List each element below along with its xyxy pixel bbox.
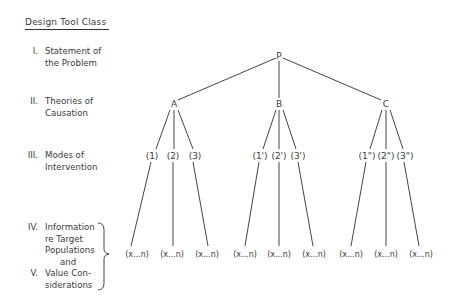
node-leaf: (x...n) bbox=[374, 250, 398, 259]
node-leaf: (x...n) bbox=[233, 250, 257, 259]
node-leaf: (x...n) bbox=[125, 250, 149, 259]
node-mode: (3") bbox=[397, 151, 414, 161]
node-mode: (1') bbox=[252, 151, 267, 161]
tree-diagram: P A B C (1) (2) (3) (1') (2') (3') (1") … bbox=[0, 0, 454, 299]
node-leaf: (x...n) bbox=[409, 250, 433, 259]
node-leaf: (x...n) bbox=[160, 250, 184, 259]
brace-icon bbox=[98, 223, 109, 290]
node-leaf: (x...n) bbox=[195, 250, 219, 259]
node-mode: (3) bbox=[189, 151, 202, 161]
node-mode: (3') bbox=[290, 151, 305, 161]
node-root: P bbox=[276, 51, 282, 61]
node-mode: (2) bbox=[167, 151, 180, 161]
node-mode: (1") bbox=[359, 151, 376, 161]
node-mode: (2') bbox=[271, 151, 286, 161]
node-mode: (2") bbox=[378, 151, 395, 161]
node-leaf: (x...n) bbox=[302, 250, 326, 259]
node-theory-c: C bbox=[383, 99, 389, 109]
node-theory-a: A bbox=[171, 99, 178, 109]
node-mode: (1) bbox=[146, 151, 159, 161]
node-theory-b: B bbox=[276, 99, 282, 109]
node-leaf: (x...n) bbox=[339, 250, 363, 259]
node-leaf: (x...n) bbox=[267, 250, 291, 259]
